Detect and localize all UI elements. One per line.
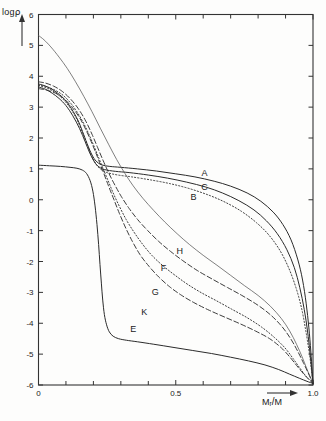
x-tick-label: 1.0 xyxy=(307,389,319,398)
axis-arrow-layer xyxy=(19,14,298,396)
curve-c xyxy=(39,87,314,383)
x-tick-label: 0.5 xyxy=(170,389,182,398)
y-tick-label: 3 xyxy=(29,103,34,112)
y-tick-label: -6 xyxy=(26,381,34,390)
plot-area: 6543210-1-2-3-4-5-600.51.0 ACBHFGKE xyxy=(0,0,326,421)
y-tick-label: 5 xyxy=(29,41,34,50)
curve-label-c: C xyxy=(201,182,208,192)
axis-layer: 6543210-1-2-3-4-5-600.51.0 xyxy=(26,11,319,399)
y-tick-label: 2 xyxy=(29,134,34,143)
y-tick-label: 0 xyxy=(29,196,34,205)
y-tick-label: 4 xyxy=(29,72,34,81)
x-tick-label: 0 xyxy=(36,389,41,398)
y-tick-label: -4 xyxy=(26,319,34,328)
y-tick-label: 6 xyxy=(29,11,34,20)
y-tick-label: -3 xyxy=(26,288,34,297)
curve-label-a: A xyxy=(202,168,208,178)
curve-b xyxy=(39,86,314,384)
curve-h xyxy=(39,36,314,384)
curve-label-k: K xyxy=(141,307,147,317)
curve-label-e: E xyxy=(130,324,136,334)
curve-k xyxy=(39,89,314,384)
curve-e xyxy=(39,165,314,383)
y-tick-label: -2 xyxy=(26,258,34,267)
y-tick-label: -5 xyxy=(26,350,34,359)
curve-label-f: F xyxy=(161,263,167,273)
y-tick-label: 1 xyxy=(29,165,34,174)
curve-label-g: G xyxy=(152,287,159,297)
curve-layer xyxy=(39,36,314,384)
figure-container: logρ Mr/M 6543210-1-2-3-4-5-600.51.0 ACB… xyxy=(0,0,326,421)
curve-label-b: B xyxy=(191,192,197,202)
y-tick-label: -1 xyxy=(26,227,34,236)
curve-label-h: H xyxy=(177,246,184,256)
